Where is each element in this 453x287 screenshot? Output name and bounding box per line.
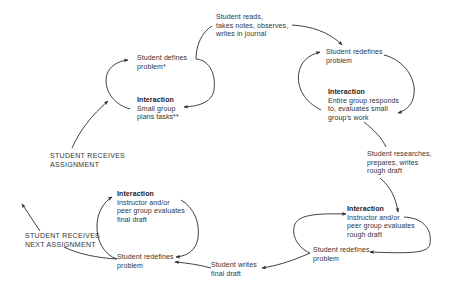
node-line: peer group evaluates bbox=[347, 222, 415, 231]
node-receives-assignment: STUDENT RECEIVES ASSIGNMENT bbox=[50, 152, 125, 169]
node-line: rough draft bbox=[347, 231, 415, 240]
node-researches: Student researches, prepares, writes rou… bbox=[367, 150, 432, 176]
node-line: takes notes, observes, bbox=[216, 22, 288, 31]
node-line: Student redefines bbox=[117, 253, 174, 262]
interaction-heading: Interaction bbox=[347, 205, 415, 214]
node-redefines-problem-2: Student redefines problem bbox=[313, 246, 370, 263]
node-line: Instructor and/or bbox=[347, 214, 415, 223]
node-line: plans tasks** bbox=[137, 113, 179, 122]
arrow-cycle4-left bbox=[97, 197, 117, 259]
node-line: Student redefines bbox=[313, 246, 370, 255]
node-eval-rough-draft-interaction: Interaction Instructor and/or peer group… bbox=[347, 205, 415, 239]
node-line: STUDENT RECEIVES bbox=[50, 152, 125, 161]
arrow-assignment-to-cycle1 bbox=[72, 101, 108, 148]
arrow-redefine2-to-final bbox=[262, 253, 310, 268]
arrow-final-to-redefine3 bbox=[175, 262, 211, 268]
node-line: Student writes bbox=[211, 261, 257, 270]
node-line: final draft bbox=[117, 216, 185, 225]
arrow-cycle1-right bbox=[184, 59, 214, 107]
node-line: to, evaluates small bbox=[328, 105, 399, 114]
node-line: Student redefines bbox=[326, 48, 383, 57]
node-entire-group-interaction: Interaction Entire group responds to, ev… bbox=[328, 88, 399, 122]
node-line: Student reads, bbox=[216, 13, 288, 22]
node-line: rough draft bbox=[367, 167, 432, 176]
node-line: STUDENT RECEIVES bbox=[25, 232, 100, 241]
interaction-heading: Interaction bbox=[117, 190, 185, 199]
node-line: problem* bbox=[137, 63, 187, 72]
node-eval-final-draft-interaction: Interaction Instructor and/or peer group… bbox=[117, 190, 185, 224]
node-line: writes in journal bbox=[216, 30, 288, 39]
node-line: problem bbox=[326, 57, 383, 66]
node-line: Entire group responds bbox=[328, 97, 399, 106]
node-line: group's work bbox=[328, 114, 399, 123]
interaction-heading: Interaction bbox=[328, 88, 399, 97]
interaction-heading: Interaction bbox=[137, 96, 179, 105]
arrow-group-to-research bbox=[364, 122, 386, 147]
node-small-group-interaction: Interaction Small group plans tasks** bbox=[137, 96, 179, 122]
node-line: ASSIGNMENT bbox=[50, 161, 125, 170]
node-line: prepares, writes bbox=[367, 159, 432, 168]
node-line: peer group evaluates bbox=[117, 207, 185, 216]
node-line: problem bbox=[313, 255, 370, 264]
node-line: NEXT ASSIGNMENT bbox=[25, 241, 100, 250]
node-line: Student defines bbox=[137, 54, 187, 63]
node-line: Student researches, bbox=[367, 150, 432, 159]
arrow-reads-to-redefine1 bbox=[292, 25, 342, 45]
node-reads-notes: Student reads, takes notes, observes, wr… bbox=[216, 13, 288, 39]
node-redefines-problem-3: Student redefines problem bbox=[117, 253, 174, 270]
arrow-next-assignment-out bbox=[22, 204, 40, 231]
node-line: Instructor and/or bbox=[117, 199, 185, 208]
node-defines-problem: Student defines problem* bbox=[137, 54, 187, 71]
arrow-define-to-reads bbox=[196, 26, 212, 59]
node-line: Small group bbox=[137, 105, 179, 114]
writing-process-diagram: STUDENT RECEIVES ASSIGNMENT Student defi… bbox=[0, 0, 453, 287]
arrow-cycle2-left bbox=[298, 52, 321, 110]
node-next-assignment: STUDENT RECEIVES NEXT ASSIGNMENT bbox=[25, 232, 100, 249]
arrow-cycle1-left bbox=[106, 60, 130, 109]
node-writes-final-draft: Student writes final draft bbox=[211, 261, 257, 278]
node-line: final draft bbox=[211, 270, 257, 279]
node-line: problem bbox=[117, 262, 174, 271]
node-redefines-problem-1: Student redefines problem bbox=[326, 48, 383, 65]
